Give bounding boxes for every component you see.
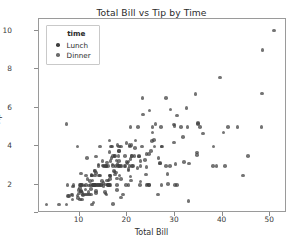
- data-point: [71, 198, 75, 202]
- data-point: [120, 164, 124, 168]
- data-point: [145, 183, 149, 187]
- data-point: [166, 172, 170, 176]
- data-point: [187, 162, 191, 166]
- x-tick-label: 50: [265, 215, 274, 224]
- data-point: [196, 122, 200, 126]
- data-point: [157, 156, 161, 160]
- data-point: [223, 164, 227, 168]
- data-point: [97, 174, 101, 178]
- legend-label-dinner: Dinner: [67, 51, 91, 60]
- data-point: [226, 125, 230, 129]
- y-tick-mark: [34, 212, 38, 213]
- matplotlib-figure: Total Bill vs Tip by Time 246810 1020304…: [0, 0, 303, 251]
- x-tick-label: 20: [122, 215, 131, 224]
- data-point: [94, 155, 98, 159]
- data-point: [111, 202, 115, 206]
- x-tick-mark: [79, 212, 80, 216]
- data-point: [156, 193, 160, 197]
- legend[interactable]: time Lunch Dinner: [46, 25, 100, 65]
- data-point: [84, 183, 88, 187]
- data-point: [112, 169, 116, 173]
- data-point: [127, 167, 131, 171]
- data-point: [76, 145, 80, 149]
- data-point: [145, 165, 149, 169]
- data-point: [81, 193, 85, 197]
- legend-title: time: [62, 29, 91, 38]
- x-tick-label: 10: [74, 215, 83, 224]
- data-point: [172, 141, 176, 145]
- data-point: [125, 141, 129, 145]
- data-point: [173, 183, 177, 187]
- data-point: [172, 123, 176, 127]
- data-point: [93, 169, 97, 173]
- data-point: [246, 154, 250, 158]
- data-point: [66, 183, 70, 187]
- y-tick-label: 8: [7, 64, 12, 73]
- data-point: [241, 174, 245, 178]
- data-point: [78, 198, 82, 202]
- legend-label-lunch: Lunch: [67, 41, 89, 50]
- data-point: [57, 203, 61, 207]
- data-point: [92, 183, 96, 187]
- data-point: [158, 161, 162, 165]
- x-tick-label: 30: [169, 215, 178, 224]
- data-point: [138, 183, 142, 187]
- data-point: [218, 76, 222, 80]
- data-point: [236, 125, 240, 129]
- y-tick-label: 4: [7, 141, 12, 150]
- data-point: [117, 154, 121, 158]
- data-point: [154, 122, 158, 126]
- data-point: [119, 145, 123, 149]
- data-point: [101, 159, 105, 163]
- data-point: [108, 150, 112, 154]
- data-point: [141, 96, 145, 100]
- data-point: [117, 149, 121, 153]
- data-point: [128, 164, 132, 168]
- data-point: [261, 48, 265, 52]
- data-point: [144, 173, 148, 177]
- y-axis-label: Tip: [0, 114, 2, 126]
- data-point: [198, 125, 202, 129]
- data-point: [130, 154, 134, 158]
- legend-item-lunch[interactable]: Lunch: [52, 40, 91, 50]
- data-point: [45, 203, 49, 207]
- data-point: [105, 193, 109, 197]
- data-point: [179, 125, 183, 129]
- data-point: [134, 139, 138, 143]
- x-tick-mark: [126, 212, 127, 216]
- data-point: [114, 164, 118, 168]
- data-point: [67, 194, 71, 198]
- data-point: [181, 135, 185, 139]
- data-point: [159, 125, 163, 129]
- legend-item-dinner[interactable]: Dinner: [52, 50, 91, 60]
- data-point: [143, 158, 147, 162]
- legend-marker-lunch: [56, 43, 60, 47]
- data-point: [78, 183, 82, 187]
- x-tick-label: 40: [217, 215, 226, 224]
- data-point: [260, 92, 264, 96]
- data-point: [90, 203, 94, 207]
- data-point: [175, 114, 179, 118]
- data-point: [222, 131, 226, 135]
- data-point: [150, 139, 154, 143]
- x-tick-mark: [269, 212, 270, 216]
- data-point: [123, 164, 127, 168]
- y-tick-label: 2: [7, 180, 12, 189]
- x-tick-mark: [174, 212, 175, 216]
- data-point: [97, 164, 101, 168]
- data-point: [272, 29, 276, 33]
- data-point: [85, 156, 89, 160]
- data-point: [71, 185, 75, 189]
- data-point: [115, 183, 119, 187]
- data-point: [136, 166, 140, 170]
- data-point: [124, 183, 128, 187]
- data-point: [174, 162, 178, 166]
- data-point: [168, 164, 172, 168]
- data-point: [119, 177, 123, 181]
- data-point: [88, 179, 92, 183]
- data-point: [164, 96, 168, 100]
- x-axis-label: Total Bill: [0, 228, 303, 237]
- data-point: [166, 182, 170, 186]
- data-point: [160, 183, 164, 187]
- y-tick-label: 10: [3, 25, 12, 34]
